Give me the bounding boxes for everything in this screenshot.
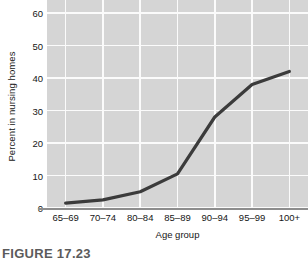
figure-container: Percent in nursing homes 0102030405060 6… <box>0 0 308 260</box>
y-axis-title: Percent in nursing homes <box>0 0 22 212</box>
data-series-line <box>47 0 308 208</box>
y-axis-tick-label: 40 <box>32 73 43 84</box>
y-axis-tick-label: 60 <box>32 8 43 19</box>
x-axis-tick-label: 65–69 <box>52 212 78 223</box>
x-axis-title: Age group <box>47 229 308 240</box>
x-axis-tick-label: 90–94 <box>202 212 228 223</box>
y-axis-tick-label: 20 <box>32 138 43 149</box>
y-axis-tick-label: 30 <box>32 105 43 116</box>
y-axis-tick-labels: 0102030405060 <box>22 0 46 209</box>
x-axis-line <box>38 208 308 210</box>
y-axis-title-label: Percent in nursing homes <box>6 51 17 161</box>
x-axis-tick-label: 70–74 <box>90 212 116 223</box>
x-axis-tick-label: 80–84 <box>127 212 153 223</box>
x-axis-tick-label: 85–89 <box>164 212 190 223</box>
x-axis-tick-label: 95–99 <box>239 212 265 223</box>
y-axis-tick-label: 50 <box>32 40 43 51</box>
plot-area <box>47 0 308 208</box>
x-axis-tick-label: 100+ <box>279 212 300 223</box>
x-axis-tick-labels: 65–6970–7480–8485–8990–9495–99100+ <box>47 212 308 228</box>
y-axis-tick-label: 10 <box>32 170 43 181</box>
figure-caption: FIGURE 17.23 <box>2 246 252 260</box>
